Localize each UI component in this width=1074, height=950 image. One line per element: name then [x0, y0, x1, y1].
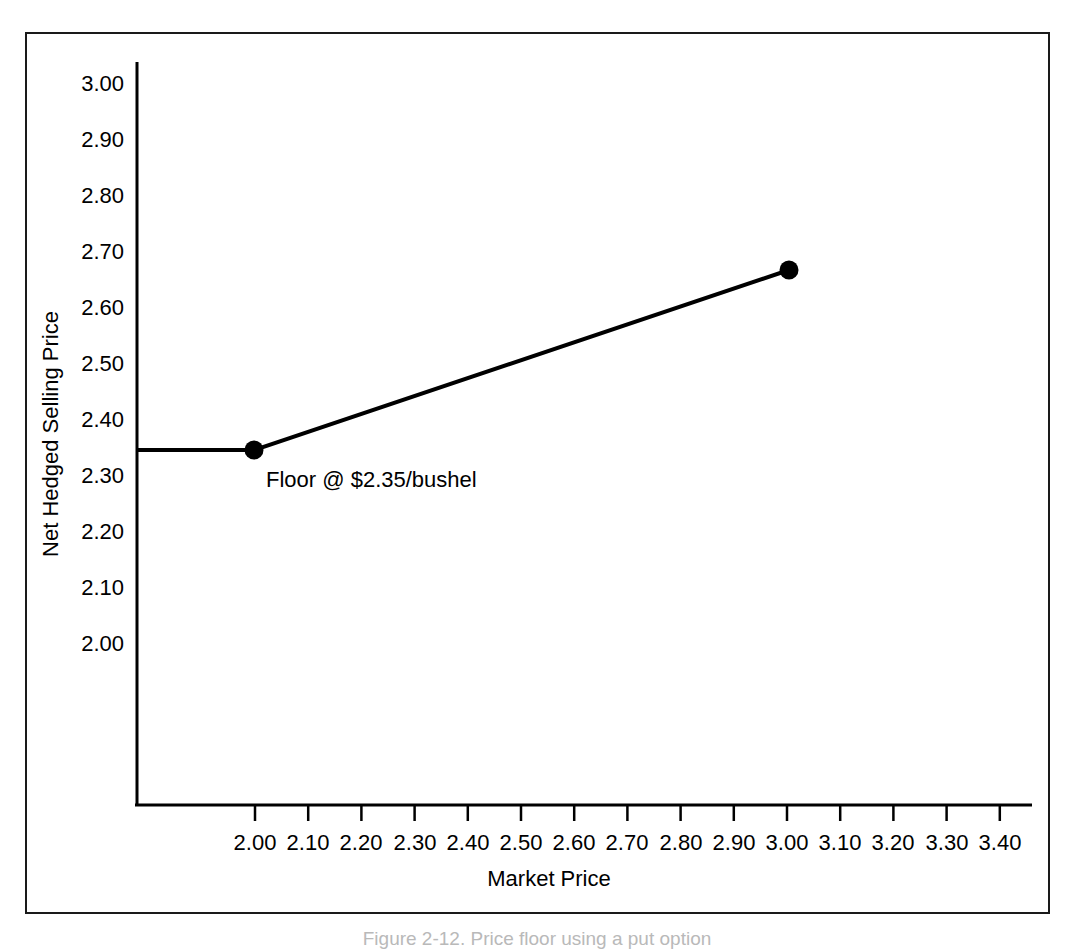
x-tick-label: 2.20 — [340, 832, 383, 854]
x-tick-label: 2.00 — [234, 832, 277, 854]
y-tick-label: 2.40 — [54, 409, 124, 431]
y-axis-title: Net Hedged Selling Price — [38, 311, 64, 557]
y-tick-label: 2.00 — [54, 633, 124, 655]
x-tick-label: 2.50 — [500, 832, 543, 854]
x-tick-label: 3.00 — [766, 832, 809, 854]
x-tick-label: 3.30 — [926, 832, 969, 854]
y-tick-label: 3.00 — [54, 73, 124, 95]
x-tick-label: 2.60 — [553, 832, 596, 854]
y-tick-label: 2.70 — [54, 241, 124, 263]
data-marker-upper — [780, 261, 799, 280]
y-tick-label: 2.30 — [54, 465, 124, 487]
x-axis-ticks — [255, 805, 1000, 821]
data-marker-floor — [245, 441, 264, 460]
y-tick-label: 2.60 — [54, 297, 124, 319]
y-tick-label: 2.50 — [54, 353, 124, 375]
y-tick-label: 2.10 — [54, 577, 124, 599]
x-tick-label: 3.40 — [979, 832, 1022, 854]
x-tick-label: 2.40 — [447, 832, 490, 854]
annotation-floor-label: Floor @ $2.35/bushel — [266, 467, 477, 493]
y-tick-label: 2.80 — [54, 185, 124, 207]
x-tick-label: 2.70 — [606, 832, 649, 854]
y-tick-label: 2.20 — [54, 521, 124, 543]
x-axis-title: Market Price — [487, 866, 610, 892]
y-tick-label: 2.90 — [54, 129, 124, 151]
data-line-net-hedged-price — [137, 270, 789, 450]
x-tick-label: 2.10 — [287, 832, 330, 854]
x-tick-label: 2.80 — [660, 832, 703, 854]
figure-caption: Figure 2-12. Price floor using a put opt… — [363, 928, 712, 950]
x-tick-label: 3.10 — [819, 832, 862, 854]
x-tick-label: 2.30 — [394, 832, 437, 854]
x-tick-label: 3.20 — [872, 832, 915, 854]
x-tick-label: 2.90 — [713, 832, 756, 854]
